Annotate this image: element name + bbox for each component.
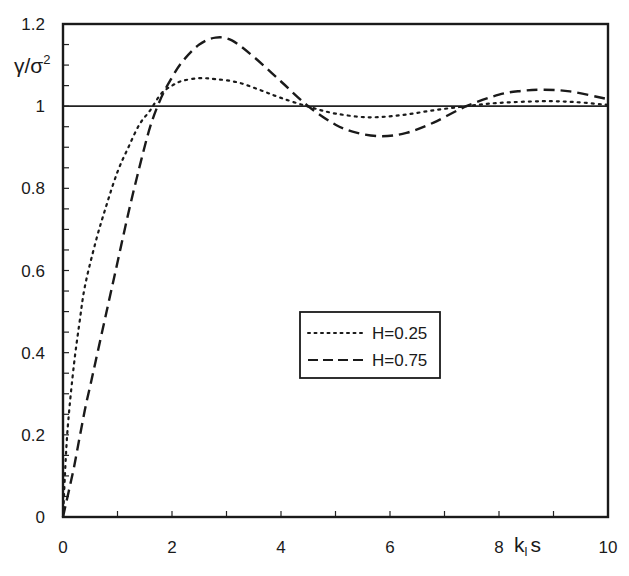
y-tick-label: 0.2 [21,426,45,445]
y-tick-label: 0.4 [21,344,45,363]
x-tick-label: 4 [276,538,285,557]
legend-label-h075: H=0.75 [372,351,427,370]
axis-ticks [63,24,554,517]
x-tick-label: 8 [494,538,503,557]
series-line-h075 [63,37,608,517]
y-tick-label: 1 [36,97,45,116]
x-tick-label: 10 [599,538,618,557]
x-tick-label: 0 [58,538,67,557]
y-tick-label: 0.6 [21,262,45,281]
x-axis-title: kls [514,533,541,559]
y-tick-labels: 00.20.40.60.811.2 [21,15,45,527]
legend: H=0.25 H=0.75 [300,312,440,378]
chart: 00.20.40.60.811.2 0246810 γ/σ2 kls H=0.2… [0,0,629,576]
series-group [63,37,608,517]
y-tick-label: 0.8 [21,179,45,198]
plot-frame [63,24,608,517]
x-tick-label: 6 [385,538,394,557]
y-axis-title: γ/σ2 [14,52,51,77]
x-tick-label: 2 [167,538,176,557]
y-tick-label: 0 [36,508,45,527]
legend-label-h025: H=0.25 [372,324,427,343]
y-tick-label: 1.2 [21,15,45,34]
